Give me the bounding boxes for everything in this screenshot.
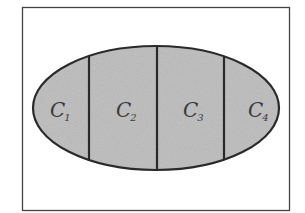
partition-diagram: C1C2C3C4 — [0, 0, 305, 213]
